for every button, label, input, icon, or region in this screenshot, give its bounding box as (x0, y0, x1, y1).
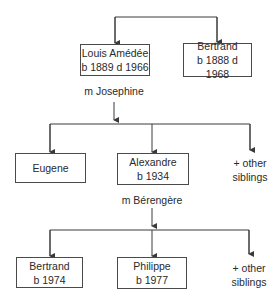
person-box-bertrand-elder: Bertrand b 1888 d 1968 (183, 43, 252, 77)
marriage-label-berengere: m Bérengère (110, 193, 194, 207)
person-name: Louis Amédée (82, 46, 149, 60)
person-box-alexandre: Alexandre b 1934 (117, 153, 189, 185)
marriage-label-josephine: m Josephine (74, 84, 154, 98)
person-dates: b 1977 (136, 273, 168, 287)
person-box-eugene: Eugene (15, 153, 86, 183)
person-box-bertrand-younger: Bertrand b 1974 (16, 257, 83, 288)
other-siblings-line1: + other (220, 156, 276, 170)
person-dates: b 1888 d 1968 (184, 53, 251, 81)
other-siblings-label: + other siblings (219, 261, 276, 289)
person-name: Philippe (133, 259, 170, 273)
person-name: Bertrand (29, 259, 69, 273)
other-siblings-line2: siblings (219, 275, 276, 289)
person-box-louis-amedee: Louis Amédée b 1889 d 1966 (80, 44, 150, 76)
other-siblings-line2: siblings (220, 170, 276, 184)
person-dates: b 1974 (33, 273, 65, 287)
other-siblings-label: + other siblings (220, 156, 276, 184)
person-name: Bertrand (197, 39, 237, 53)
person-name: Alexandre (129, 155, 176, 169)
person-name: Eugene (32, 161, 68, 175)
person-dates: b 1934 (137, 169, 169, 183)
person-dates: b 1889 d 1966 (81, 60, 148, 74)
person-box-philippe: Philippe b 1977 (117, 257, 187, 289)
other-siblings-line1: + other (219, 261, 276, 275)
